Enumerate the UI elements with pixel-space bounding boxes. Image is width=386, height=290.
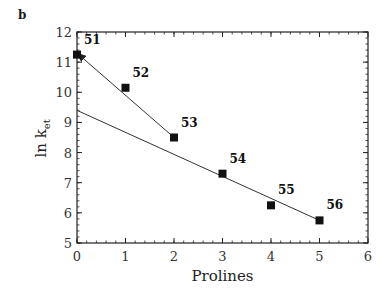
data-point-label: 52	[133, 66, 150, 80]
x-tick-label: 0	[73, 249, 81, 264]
data-point-marker	[219, 170, 227, 178]
data-point-marker	[267, 201, 275, 209]
data-point-marker	[316, 216, 324, 224]
data-point-label: 53	[181, 116, 198, 130]
y-axis-title-subscript: et	[41, 119, 52, 129]
scatter-plot: 012345656789101112515253545556Prolinesln…	[0, 0, 386, 290]
y-tick-label: 11	[55, 55, 72, 70]
y-tick-label: 9	[64, 115, 72, 130]
y-tick-label: 6	[64, 206, 72, 221]
x-tick-label: 5	[315, 249, 323, 264]
x-tick-label: 6	[364, 249, 372, 264]
x-tick-label: 3	[218, 249, 226, 264]
data-point-marker	[122, 84, 130, 92]
plot-frame	[77, 32, 368, 243]
x-axis-title: Prolines	[191, 267, 253, 285]
y-tick-label: 10	[55, 85, 72, 100]
y-tick-label: 12	[55, 25, 72, 40]
y-tick-label: 8	[64, 146, 72, 161]
data-point-label: 56	[327, 198, 344, 212]
y-axis-title: ln ket	[32, 119, 52, 157]
y-tick-label: 7	[64, 176, 72, 191]
data-point-label: 54	[230, 152, 247, 166]
fit-line	[77, 53, 174, 137]
data-point-label: 51	[84, 33, 101, 47]
x-tick-label: 2	[170, 249, 178, 264]
x-tick-label: 1	[121, 249, 129, 264]
data-point-marker	[170, 134, 178, 142]
fit-line	[77, 110, 320, 220]
y-tick-label: 5	[64, 236, 72, 251]
x-tick-label: 4	[267, 249, 275, 264]
data-point-marker	[73, 51, 81, 59]
data-point-label: 55	[278, 183, 295, 197]
